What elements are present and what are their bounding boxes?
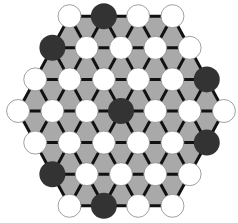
white-piece[interactable] (161, 131, 184, 154)
white-piece[interactable] (161, 5, 184, 28)
white-piece[interactable] (144, 36, 167, 59)
white-piece[interactable] (178, 36, 201, 59)
white-piece[interactable] (24, 131, 47, 154)
white-piece[interactable] (24, 68, 47, 91)
white-piece[interactable] (58, 194, 81, 217)
black-piece[interactable] (91, 193, 117, 219)
black-piece[interactable] (194, 130, 220, 156)
black-piece[interactable] (108, 98, 134, 124)
white-piece[interactable] (161, 194, 184, 217)
white-piece[interactable] (178, 163, 201, 186)
white-piece[interactable] (7, 100, 30, 123)
board-svg (0, 0, 238, 223)
white-piece[interactable] (41, 100, 64, 123)
white-piece[interactable] (75, 100, 98, 123)
white-piece[interactable] (58, 68, 81, 91)
white-piece[interactable] (127, 68, 150, 91)
white-piece[interactable] (92, 68, 115, 91)
white-piece[interactable] (110, 163, 133, 186)
white-piece[interactable] (127, 5, 150, 28)
white-piece[interactable] (178, 100, 201, 123)
white-piece[interactable] (75, 163, 98, 186)
black-piece[interactable] (39, 161, 65, 187)
black-piece[interactable] (39, 35, 65, 61)
white-piece[interactable] (92, 131, 115, 154)
white-piece[interactable] (75, 36, 98, 59)
white-piece[interactable] (110, 36, 133, 59)
black-piece[interactable] (91, 3, 117, 29)
white-piece[interactable] (161, 68, 184, 91)
white-piece[interactable] (58, 131, 81, 154)
white-piece[interactable] (127, 194, 150, 217)
white-piece[interactable] (58, 5, 81, 28)
white-piece[interactable] (127, 131, 150, 154)
white-piece[interactable] (212, 100, 235, 123)
white-piece[interactable] (144, 163, 167, 186)
white-piece[interactable] (144, 100, 167, 123)
black-piece[interactable] (194, 66, 220, 92)
